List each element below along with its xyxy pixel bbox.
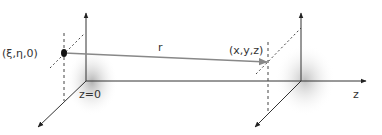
diagram-canvas: (ξ,η,0) (x,y,z) r z=0 z	[0, 0, 382, 135]
source-plane-shadow	[66, 48, 118, 116]
field-plane-shadow	[275, 44, 335, 116]
field-point-label: (x,y,z)	[229, 44, 263, 57]
source-point-label: (ξ,η,0)	[2, 47, 38, 60]
z-axis-label: z	[353, 88, 359, 101]
plane-label: z=0	[79, 88, 101, 101]
source-point-dot	[61, 49, 67, 57]
distance-label: r	[158, 41, 163, 54]
